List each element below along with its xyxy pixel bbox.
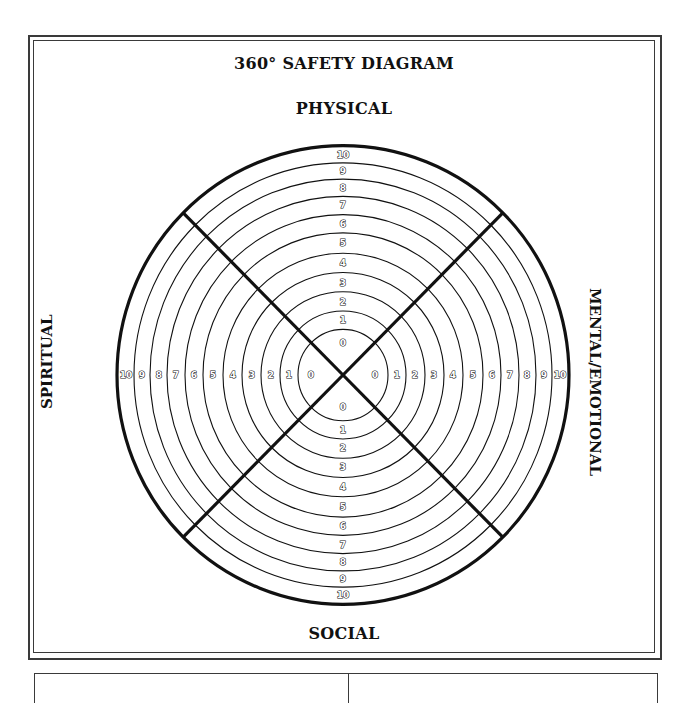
scale-label-physical: 3 (340, 278, 346, 288)
notes-box-left[interactable] (34, 673, 349, 703)
scale-label-spiritual: 0 (308, 370, 314, 380)
scale-label-mental: 3 (431, 370, 437, 380)
scale-label-social: 1 (340, 425, 346, 435)
scale-label-spiritual: 5 (210, 370, 216, 380)
scale-label-physical: 8 (340, 183, 346, 193)
scale-label-mental: 7 (507, 370, 513, 380)
scale-label-social: 0 (340, 402, 346, 412)
scale-label-social: 5 (340, 502, 346, 512)
scale-label-physical: 10 (337, 150, 350, 160)
scale-label-spiritual: 7 (173, 370, 179, 380)
scale-label-mental: 4 (450, 370, 456, 380)
scale-label-social: 2 (340, 443, 346, 453)
scale-label-social: 8 (340, 557, 346, 567)
scale-label-spiritual: 9 (139, 370, 145, 380)
scale-label-mental: 5 (470, 370, 476, 380)
scale-label-social: 4 (340, 482, 346, 492)
scale-label-mental: 10 (554, 370, 567, 380)
scale-label-physical: 0 (340, 338, 346, 348)
scale-label-mental: 0 (372, 370, 378, 380)
notes-box-right[interactable] (348, 673, 658, 703)
scale-label-mental: 2 (412, 370, 418, 380)
scale-label-spiritual: 1 (286, 370, 292, 380)
scale-label-mental: 9 (541, 370, 547, 380)
scale-label-spiritual: 4 (230, 370, 236, 380)
scale-label-physical: 2 (340, 297, 346, 307)
scale-label-physical: 5 (340, 238, 346, 248)
scale-label-physical: 7 (340, 200, 346, 210)
scale-label-social: 10 (337, 590, 350, 600)
scale-label-spiritual: 8 (156, 370, 162, 380)
scale-label-spiritual: 6 (191, 370, 197, 380)
scale-label-spiritual: 2 (268, 370, 274, 380)
scale-label-mental: 1 (394, 370, 400, 380)
scale-label-physical: 6 (340, 219, 346, 229)
scale-label-spiritual: 3 (249, 370, 255, 380)
scale-label-mental: 8 (524, 370, 530, 380)
scale-label-physical: 1 (340, 315, 346, 325)
scale-label-social: 6 (340, 521, 346, 531)
scale-label-physical: 9 (340, 166, 346, 176)
scale-label-social: 7 (340, 540, 346, 550)
scale-label-social: 9 (340, 574, 346, 584)
scale-label-spiritual: 10 (120, 370, 133, 380)
scale-label-mental: 6 (489, 370, 495, 380)
scale-label-social: 3 (340, 462, 346, 472)
scale-label-physical: 4 (340, 258, 346, 268)
